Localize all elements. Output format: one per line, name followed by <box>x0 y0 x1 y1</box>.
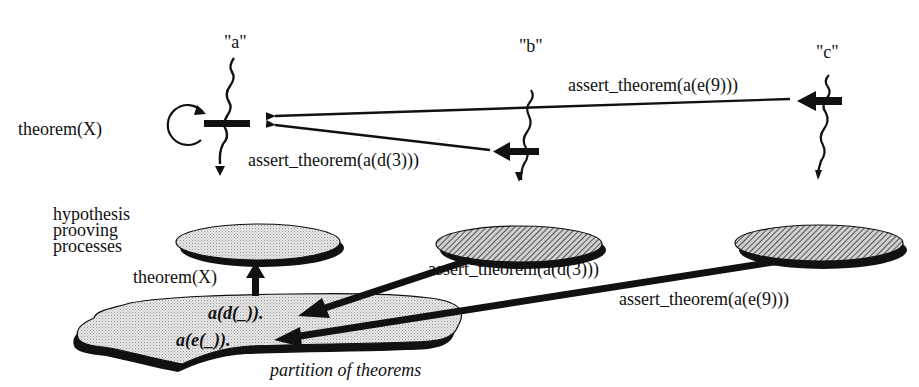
msg-b-label-upper: assert_theorem(a(d(3))) <box>248 150 419 171</box>
self-loop-label: theorem(X) <box>18 119 102 140</box>
partition-entry-d: a(d(_)). <box>208 303 263 324</box>
message-arrow-c-to-a <box>275 99 790 116</box>
diagram-canvas: "a" theorem(X) "b" "c" assert_theorem(a(… <box>0 0 919 387</box>
thread-b-label: "b" <box>519 36 543 56</box>
msg-c-label-lower: assert_theorem(a(e(9))) <box>619 289 789 310</box>
thread-a-receive-bar <box>204 120 250 127</box>
thread-a: "a" <box>168 32 250 176</box>
msg-c-label-upper: assert_theorem(a(e(9))) <box>568 75 738 96</box>
thread-a-label: "a" <box>224 32 247 52</box>
thread-c: "c" <box>797 42 842 180</box>
theorem-query-label: theorem(X) <box>133 267 217 288</box>
processes-caption: hypothesis prooving processes <box>53 204 130 256</box>
process-ellipse-a <box>176 224 344 267</box>
msg-b-label-lower: assert_theorem(a(d(3))) <box>428 259 599 280</box>
svg-text:processes: processes <box>53 236 122 256</box>
send-arrowhead-c <box>797 91 816 111</box>
partition-caption: partition of theorems <box>268 360 421 380</box>
theorem-query-arrow <box>246 262 265 296</box>
thread-c-label: "c" <box>816 42 839 62</box>
message-arrow-b-to-a <box>275 125 490 150</box>
partition-entry-e: a(e(_)). <box>176 330 230 351</box>
send-arrowhead-b <box>493 142 510 161</box>
